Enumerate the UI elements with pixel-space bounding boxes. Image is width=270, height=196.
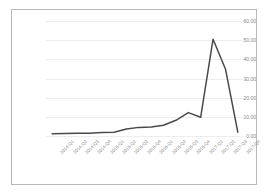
series-layer xyxy=(12,10,258,186)
chart-figure: 0.0010.0020.0030.0040.0050.0060.002014-Q… xyxy=(11,9,257,185)
plot-area: 0.0010.0020.0030.0040.0050.0060.002014-Q… xyxy=(12,10,256,184)
data-series-line xyxy=(52,39,238,133)
